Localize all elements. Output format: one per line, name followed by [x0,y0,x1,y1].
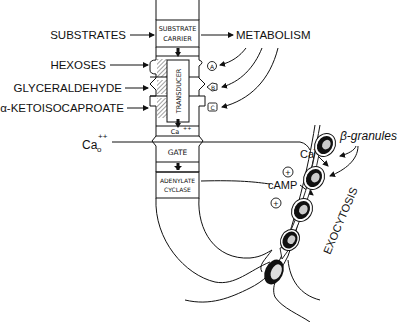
ketoisocaproate-label: α-KETOISOCAPROATE [0,102,124,114]
camp-signal-line [201,181,270,184]
substrate-carrier-label-2: CARRIER [163,35,192,43]
beta-granules-arrows [330,146,358,176]
granule [287,195,316,226]
site-b-label: B [211,84,215,91]
metabolism-curves [220,48,278,107]
calcium-outside-sup: ++ [98,132,108,141]
camp-label: cAMP [268,179,297,191]
svg-text:+: + [285,168,290,178]
cyclase-label: CYCLASE [164,186,191,193]
substrate-carrier-label: SUBSTRATE [159,25,197,33]
adenylate-cyclase-box [156,172,199,198]
metabolism-label: METABOLISM [236,29,311,41]
ca-inside-sup: ++ [183,125,191,131]
glyceraldehyde-label: GLYCERALDEHYDE [14,82,123,94]
exocytosis-label: EXOCYTOSIS [321,185,360,255]
substrates-label: SUBSTRATES [50,29,126,41]
granule [299,163,328,194]
site-c-label: C [210,104,214,111]
ca-inside-label: Ca [171,128,180,136]
hexoses-label: HEXOSES [50,59,106,71]
transducer-label: TRANSDUCER [175,68,183,114]
gate-label: GATE [168,148,188,157]
adenylate-label: ADENYLATE [160,177,195,184]
calcium-outside-sub: o [97,145,102,154]
svg-text:+: + [273,199,278,209]
beta-cell-diagram: SUBSTRATE CARRIER TRANSDUCER Ca ++ GATE … [0,0,405,322]
calcium-outside-label: Ca [82,138,98,152]
released-granule [260,256,287,287]
beta-granules-label: β-granules [339,129,397,143]
